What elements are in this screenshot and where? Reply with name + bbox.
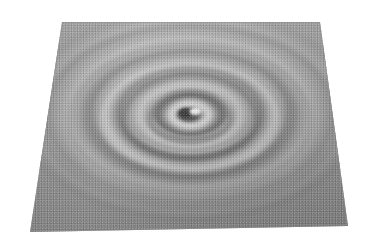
surface-plot-svg [0, 0, 367, 250]
figure-container: Concentric circular standing-wave ripple… [0, 0, 367, 250]
